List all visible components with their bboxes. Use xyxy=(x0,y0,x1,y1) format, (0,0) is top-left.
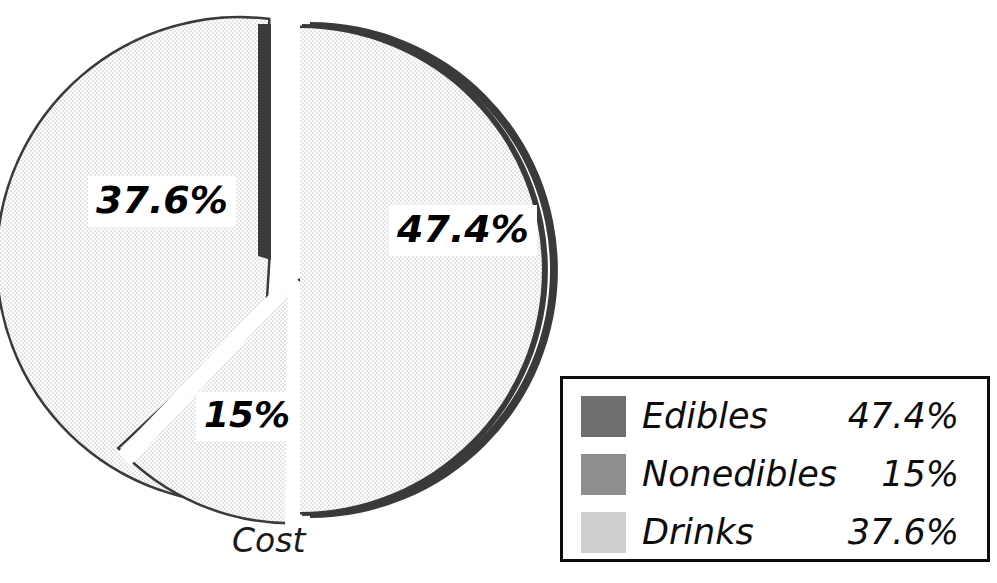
legend-percent-edibles: 47.4% xyxy=(848,396,959,436)
category-label: Cost xyxy=(232,521,305,560)
chart-canvas: 47.4% 37.6% 15% Cost Edibles 47.4% Noned… xyxy=(0,0,997,583)
legend-label-nonedibles: Nonedibles xyxy=(642,454,837,494)
pie-chart xyxy=(0,0,600,560)
legend-label-edibles: Edibles xyxy=(642,396,768,436)
legend-swatch-edibles xyxy=(581,396,626,437)
legend: Edibles 47.4% Nonedibles 15% Drinks 37.6… xyxy=(560,376,990,562)
legend-percent-nonedibles: 15% xyxy=(881,454,959,494)
legend-swatch-nonedibles xyxy=(581,454,626,495)
legend-item-nonedibles[interactable]: Nonedibles 15% xyxy=(563,445,987,503)
slice-label-edibles: 47.4% xyxy=(389,205,537,256)
legend-label-drinks: Drinks xyxy=(642,512,754,552)
slice-label-drinks: 37.6% xyxy=(88,176,236,227)
legend-item-edibles[interactable]: Edibles 47.4% xyxy=(563,387,987,445)
legend-percent-drinks: 37.6% xyxy=(848,512,959,552)
pie-gap-top xyxy=(272,14,300,286)
slice-label-nonedibles: 15% xyxy=(196,392,298,441)
pie-gaps xyxy=(0,0,600,560)
legend-swatch-drinks xyxy=(581,512,626,553)
legend-item-drinks[interactable]: Drinks 37.6% xyxy=(563,503,987,561)
